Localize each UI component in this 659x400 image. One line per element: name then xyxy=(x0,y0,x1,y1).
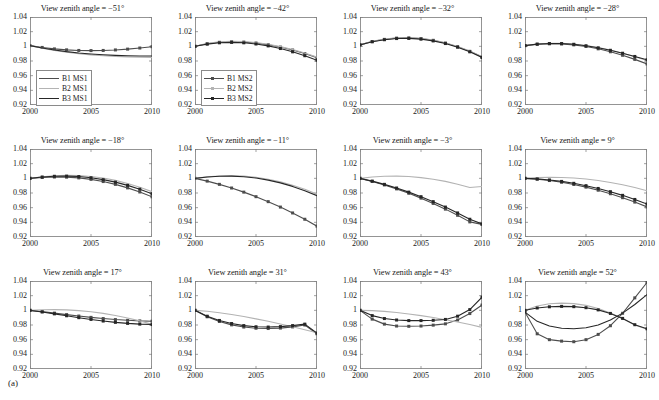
y-axis-tick-label: 0.96 xyxy=(165,204,192,212)
legend-item: B1 MS1 xyxy=(39,73,88,83)
y-axis-tick-label: 1 xyxy=(495,306,522,314)
y-axis-tick-label: 1 xyxy=(0,306,27,314)
x-axis-tick-label: 2005 xyxy=(246,108,266,116)
y-axis-tick-label: 0.96 xyxy=(0,204,27,212)
y-axis-tick-label: 0.94 xyxy=(495,86,522,94)
y-axis-tick-label: 0.96 xyxy=(330,336,357,344)
x-axis-tick-label: 2010 xyxy=(472,240,492,248)
y-axis-tick-label: 1.02 xyxy=(330,292,357,300)
x-axis-tick-label: 2000 xyxy=(350,372,370,380)
y-axis-tick-label: 1 xyxy=(0,42,27,50)
plot-area xyxy=(30,281,152,369)
x-axis-tick-label: 2005 xyxy=(411,372,431,380)
subplot-11: View zenith angle = 52°1.041.0210.980.96… xyxy=(495,266,659,398)
x-axis-tick-label: 2010 xyxy=(472,372,492,380)
x-axis-tick-label: 2005 xyxy=(576,240,596,248)
y-axis-tick-label: 0.94 xyxy=(165,350,192,358)
y-axis-tick-label: 0.98 xyxy=(330,189,357,197)
x-axis-tick-label: 2005 xyxy=(81,240,101,248)
y-axis-tick-label: 1.04 xyxy=(165,145,192,153)
x-axis-tick-label: 2010 xyxy=(637,240,657,248)
legend-item: B1 MS2 xyxy=(204,73,253,83)
y-axis-tick-label: 0.98 xyxy=(0,57,27,65)
y-axis-tick-label: 1.04 xyxy=(495,145,522,153)
x-axis-tick-label: 2010 xyxy=(472,108,492,116)
subplot-10: View zenith angle = 43°1.041.0210.980.96… xyxy=(330,266,495,398)
plot-area xyxy=(525,149,647,237)
x-axis-tick-label: 2010 xyxy=(307,372,327,380)
plot-area xyxy=(30,149,152,237)
x-axis-tick-label: 2010 xyxy=(142,240,162,248)
plot-area xyxy=(360,149,482,237)
y-axis-tick-label: 1.04 xyxy=(495,13,522,21)
y-axis-tick-label: 1.04 xyxy=(330,13,357,21)
y-axis-tick-label: 0.98 xyxy=(165,321,192,329)
y-axis-tick-label: 1 xyxy=(330,306,357,314)
y-axis-tick-label: 0.94 xyxy=(0,86,27,94)
x-axis-tick-label: 2000 xyxy=(185,240,205,248)
legend-marker-icon xyxy=(211,77,214,80)
figure-panel-grid: View zenith angle = −51°1.041.0210.980.9… xyxy=(0,0,659,400)
plot-area xyxy=(195,281,317,369)
y-axis-tick-label: 1.02 xyxy=(330,28,357,36)
x-axis-tick-label: 2010 xyxy=(142,372,162,380)
y-axis-tick-label: 1.04 xyxy=(330,277,357,285)
x-axis-tick-label: 2010 xyxy=(142,108,162,116)
legend-label: B3 MS1 xyxy=(62,94,88,103)
y-axis-tick-label: 0.94 xyxy=(330,350,357,358)
subplot-3: View zenith angle = −28°1.041.0210.980.9… xyxy=(495,2,659,134)
x-axis-tick-label: 2010 xyxy=(307,108,327,116)
x-axis-tick-label: 2005 xyxy=(576,108,596,116)
x-axis-tick-label: 2000 xyxy=(515,240,535,248)
x-axis-tick-label: 2000 xyxy=(185,372,205,380)
y-axis-tick-label: 0.96 xyxy=(330,72,357,80)
subplot-6: View zenith angle = −3°1.041.0210.980.96… xyxy=(330,134,495,266)
subplot-4: View zenith angle = −18°1.041.0210.980.9… xyxy=(0,134,165,266)
legend-marker-icon xyxy=(211,97,214,100)
legend-line-swatch xyxy=(204,78,224,79)
legend-line-swatch xyxy=(204,98,224,99)
y-axis-tick-label: 1.04 xyxy=(0,13,27,21)
x-axis-tick-label: 2005 xyxy=(246,372,266,380)
x-axis-tick-label: 2005 xyxy=(81,108,101,116)
y-axis-tick-label: 1 xyxy=(495,174,522,182)
y-axis-tick-label: 1.04 xyxy=(495,277,522,285)
subplot-2: View zenith angle = −32°1.041.0210.980.9… xyxy=(330,2,495,134)
x-axis-tick-label: 2000 xyxy=(350,108,370,116)
y-axis-tick-label: 0.98 xyxy=(0,321,27,329)
y-axis-tick-label: 0.98 xyxy=(495,321,522,329)
x-axis-tick-label: 2005 xyxy=(411,240,431,248)
y-axis-tick-label: 1 xyxy=(0,174,27,182)
y-axis-tick-label: 1.02 xyxy=(495,292,522,300)
y-axis-tick-label: 1.04 xyxy=(165,13,192,21)
y-axis-tick-label: 0.98 xyxy=(495,57,522,65)
y-axis-tick-label: 1 xyxy=(330,174,357,182)
y-axis-tick-label: 0.94 xyxy=(165,218,192,226)
x-axis-tick-label: 2000 xyxy=(20,108,40,116)
subplot-7: View zenith angle = 9°1.041.0210.980.960… xyxy=(495,134,659,266)
y-axis-tick-label: 0.94 xyxy=(330,86,357,94)
y-axis-tick-label: 0.96 xyxy=(495,204,522,212)
subplot-8: View zenith angle = 17°1.041.0210.980.96… xyxy=(0,266,165,398)
plot-area xyxy=(525,17,647,105)
y-axis-tick-label: 0.98 xyxy=(330,57,357,65)
y-axis-tick-label: 0.98 xyxy=(330,321,357,329)
legend-item: B2 MS1 xyxy=(39,83,88,93)
subplot-5: View zenith angle = −11°1.041.0210.980.9… xyxy=(165,134,330,266)
x-axis-tick-label: 2000 xyxy=(515,108,535,116)
x-axis-tick-label: 2000 xyxy=(350,240,370,248)
legend-label: B2 MS1 xyxy=(62,84,88,93)
legend-marker-icon xyxy=(211,87,214,90)
y-axis-tick-label: 1.02 xyxy=(165,160,192,168)
x-axis-tick-label: 2005 xyxy=(246,240,266,248)
y-axis-tick-label: 0.96 xyxy=(165,336,192,344)
x-axis-tick-label: 2000 xyxy=(185,108,205,116)
legend: B1 MS2B2 MS2B3 MS2 xyxy=(201,70,257,106)
y-axis-tick-label: 1.04 xyxy=(0,277,27,285)
x-axis-tick-label: 2005 xyxy=(411,108,431,116)
legend-label: B3 MS2 xyxy=(227,94,253,103)
x-axis-tick-label: 2010 xyxy=(637,108,657,116)
plot-area xyxy=(525,281,647,369)
y-axis-tick-label: 0.94 xyxy=(495,350,522,358)
x-axis-tick-label: 2005 xyxy=(81,372,101,380)
